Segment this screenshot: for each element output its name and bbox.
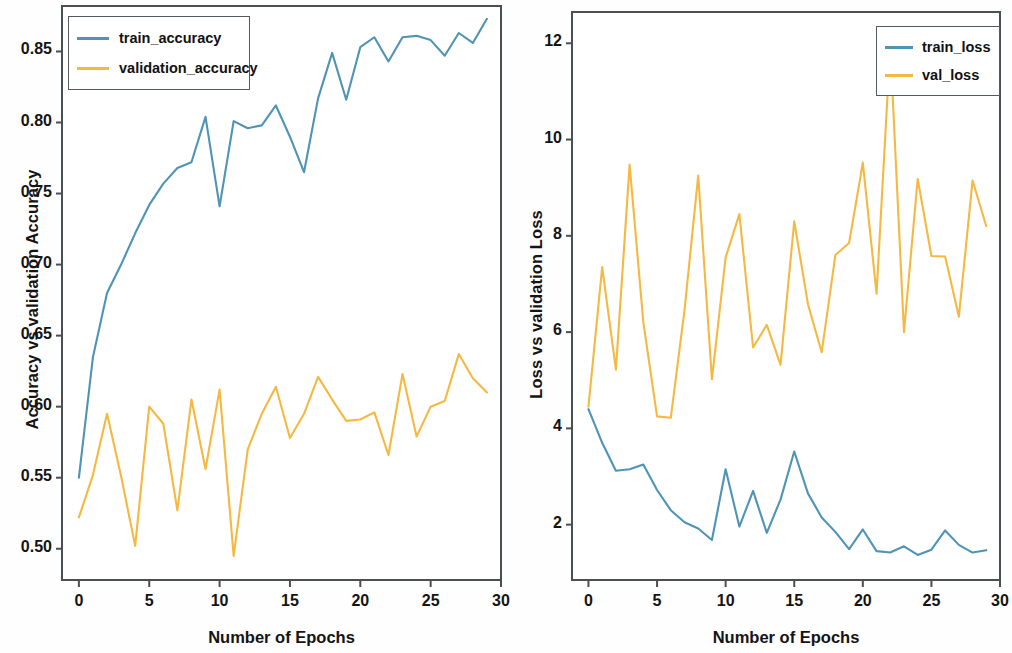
y-tick-label: 0.50: [0, 538, 52, 556]
legend-item[interactable]: validation_accuracy: [77, 53, 241, 83]
x-tick-label: 10: [195, 592, 245, 610]
x-tick-label: 25: [906, 592, 956, 610]
x-tick-label: 30: [975, 592, 1012, 610]
legend-label-validation-accuracy: validation_accuracy: [119, 60, 258, 76]
x-tick-label: 25: [406, 592, 456, 610]
plot-frame-right: [572, 12, 1000, 580]
legend-color-swatch-train-loss: [885, 46, 913, 49]
x-tick-label: 20: [838, 592, 888, 610]
legend-loss[interactable]: train_loss val_loss: [876, 26, 1000, 96]
x-tick-label: 15: [769, 592, 819, 610]
y-tick-label: 0.85: [0, 40, 52, 58]
legend-label-val-loss: val_loss: [922, 67, 979, 83]
legend-item[interactable]: train_accuracy: [77, 23, 241, 53]
legend-label-train-loss: train_loss: [922, 39, 991, 55]
panel-accuracy: 0.500.550.600.650.700.750.800.85 0510152…: [0, 0, 506, 653]
x-axis-title-loss: Number of Epochs: [572, 628, 1000, 647]
legend-accuracy[interactable]: train_accuracy validation_accuracy: [68, 16, 250, 90]
loss-plot: [506, 0, 1012, 653]
y-axis-title-accuracy: Accuracy vs validation Accuracy: [23, 110, 42, 490]
legend-color-swatch-validation-accuracy: [77, 67, 109, 70]
figure-two-panel-training-curves: 0.500.550.600.650.700.750.800.85 0510152…: [0, 0, 1012, 653]
y-axis-title-loss: Loss vs validation Loss: [527, 155, 546, 455]
y-tick-label: 2: [504, 514, 562, 532]
x-tick-label: 10: [701, 592, 751, 610]
legend-item[interactable]: val_loss: [885, 61, 991, 89]
x-tick-label: 20: [335, 592, 385, 610]
x-tick-label: 0: [54, 592, 104, 610]
x-tick-label: 5: [632, 592, 682, 610]
x-axis-title-accuracy: Number of Epochs: [62, 628, 501, 647]
legend-label-train-accuracy: train_accuracy: [119, 30, 221, 46]
legend-color-swatch-val-loss: [885, 74, 913, 77]
x-tick-label: 15: [265, 592, 315, 610]
y-tick-label: 10: [504, 129, 562, 147]
accuracy-plot: [0, 0, 506, 653]
legend-color-swatch-train-accuracy: [77, 37, 109, 40]
x-tick-label: 5: [124, 592, 174, 610]
y-tick-label: 12: [504, 32, 562, 50]
panel-loss: 24681012 051015202530 Loss vs validation…: [506, 0, 1012, 653]
plot-frame-left: [62, 6, 501, 580]
legend-item[interactable]: train_loss: [885, 33, 991, 61]
x-tick-label: 0: [563, 592, 613, 610]
